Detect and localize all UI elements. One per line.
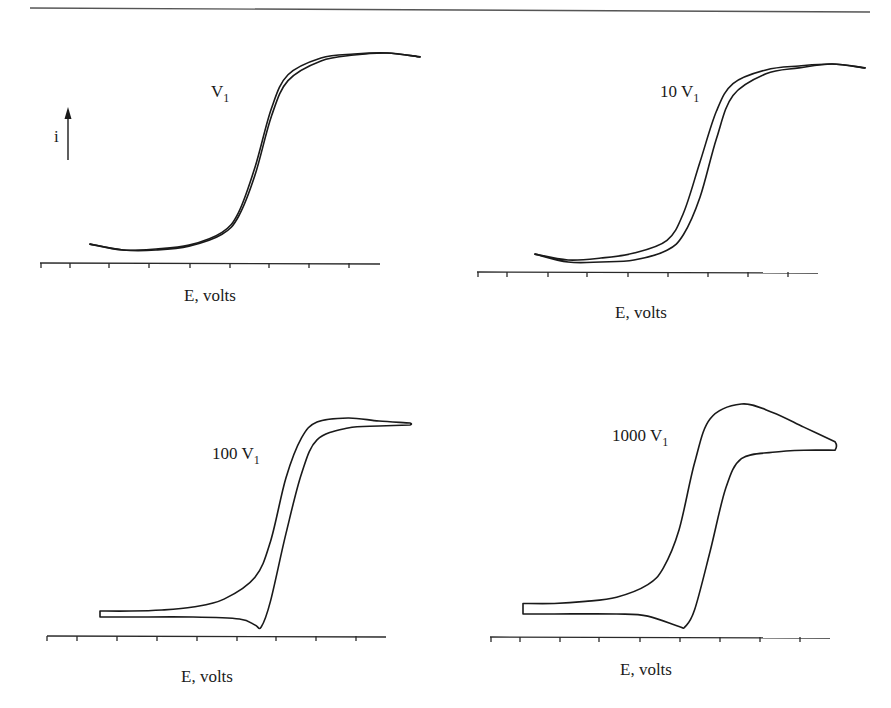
panel-label: 10 V1 <box>660 82 699 105</box>
y-axis-label: i <box>54 127 59 146</box>
figure-canvas: i V1 E, volts 10 V1 E, volts 100 V1 E, v… <box>0 0 891 708</box>
x-axis-label: E, volts <box>615 303 667 322</box>
x-axis-label: E, volts <box>184 286 236 305</box>
voltammogram-figure: i V1 E, volts 10 V1 E, volts 100 V1 E, v… <box>0 0 891 708</box>
x-axis <box>47 636 386 637</box>
panel-label: 1000 V1 <box>612 426 668 449</box>
panel-label: V1 <box>211 82 229 105</box>
panel-4: 1000 V1 E, volts <box>490 404 837 679</box>
x-axis <box>40 263 380 264</box>
reverse-scan-trace <box>535 64 865 260</box>
panel-label: 100 V1 <box>212 444 260 467</box>
current-axis-indicator: i <box>54 107 72 160</box>
x-axis <box>490 637 830 638</box>
x-axis-label: E, volts <box>620 660 672 679</box>
voltammogram-loop-trace <box>100 418 412 629</box>
top-rule <box>30 8 870 12</box>
panel-3: 100 V1 E, volts <box>47 418 412 686</box>
x-axis <box>477 272 818 273</box>
x-axis-label: E, volts <box>181 667 233 686</box>
reverse-scan-trace <box>90 53 420 250</box>
forward-scan-trace <box>90 53 420 251</box>
voltammogram-loop-trace <box>523 404 837 628</box>
panel-1: i V1 E, volts <box>40 53 420 305</box>
arrow-up-icon <box>65 107 72 119</box>
panel-2: 10 V1 E, volts <box>477 64 865 322</box>
